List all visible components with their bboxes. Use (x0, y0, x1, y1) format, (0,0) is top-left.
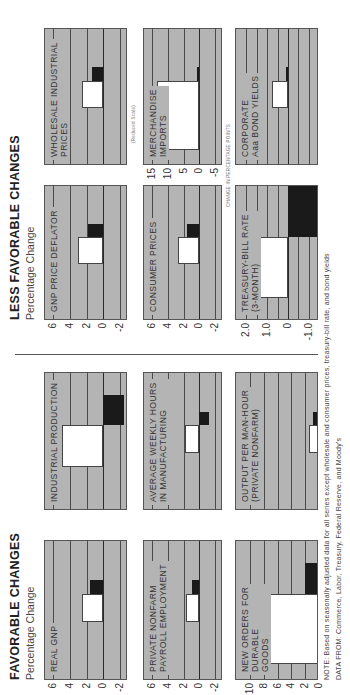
chart-panel: INDUSTRIAL PRODUCTION (44, 372, 127, 510)
chart-panel: MERCHANDISE IMPORTS (143, 28, 222, 165)
tick-label: 0 (193, 323, 204, 329)
y-axis-ticks: 6420-2 (143, 323, 222, 345)
less-favorable-title: LESS FAVORABLE CHANGES (8, 135, 22, 320)
gridline (215, 186, 216, 319)
tick-label: 0 (97, 323, 108, 329)
gridline (215, 541, 216, 679)
gridline (278, 373, 279, 509)
tick-label: -2 (209, 323, 220, 332)
tick-label: 2 (80, 683, 91, 689)
tick-label: 0 (313, 683, 324, 689)
zero-line (199, 373, 200, 509)
tick-label: 4 (63, 323, 74, 329)
gridline (298, 29, 299, 164)
zero-line (103, 373, 104, 509)
tick-label: 10 (161, 168, 172, 179)
gridline (215, 29, 216, 164)
tick-label: 4 (63, 683, 74, 689)
chart-panel: GNP PRICE DEFLATOR (44, 185, 127, 320)
dark-bar (286, 67, 288, 81)
chart-panel: AVERAGE WEEKLY HOURS IN MANUFACTURING (143, 372, 222, 510)
tick-label: 1.0 (261, 323, 272, 337)
gridline (70, 541, 71, 679)
tick-label: 4 (161, 323, 172, 329)
dark-bar (187, 224, 199, 238)
y-axis-ticks: 6420-2 (143, 683, 222, 695)
white-bar (186, 594, 199, 622)
tick-label: 15 (145, 168, 156, 179)
panel-title: WHOLESALE INDUSTRIAL PRICES (49, 39, 70, 160)
dark-bar (103, 395, 124, 425)
less-favorable-subtitle: Percentage Change (24, 227, 36, 320)
tick-label: 2 (299, 683, 310, 689)
zero-line (199, 541, 200, 679)
chart-panel: CORPORATE Aaa BOND YIELDS (235, 28, 318, 165)
chart-page: FAVORABLE CHANGES Percentage Change LESS… (0, 0, 350, 695)
gridline (120, 373, 121, 509)
dark-bar (192, 580, 199, 594)
tick-label: 4 (161, 683, 172, 689)
y-axis-ticks: 2.01.00-1.0 (235, 323, 318, 345)
white-bar (257, 237, 288, 298)
white-bar (82, 594, 104, 622)
tick-label: 2 (177, 323, 188, 329)
tick-label: 2.0 (240, 323, 251, 337)
gridline (309, 29, 310, 164)
panel-title: PRIVATE NONFARM PAYROLL EMPLOYMENT (148, 561, 169, 675)
tick-label: 0 (97, 683, 108, 689)
reduced-scale-note: (Reduced Scale) (131, 105, 136, 143)
gridline (70, 186, 71, 319)
percentage-points-note: CHANGE IN PERCENTAGE POINTS (226, 124, 231, 207)
gridline (215, 373, 216, 509)
white-bar (185, 425, 199, 453)
chart-panel: OUTPUT PER MAN-HOUR (PRIVATE NONFARM) (235, 372, 318, 510)
gridline (264, 373, 265, 509)
gridline (305, 373, 306, 509)
white-bar (309, 425, 318, 453)
zero-line (103, 29, 104, 164)
y-axis-ticks: 1086420 (235, 683, 318, 695)
panel-title: CONSUMER PRICES (148, 218, 159, 315)
chart-panel: PRIVATE NONFARM PAYROLL EMPLOYMENT (143, 540, 222, 680)
gridline (184, 541, 185, 679)
tick-label: 6 (47, 683, 58, 689)
gridline (267, 29, 268, 164)
y-axis-ticks: 6420-2 (44, 683, 127, 695)
white-bar (78, 237, 103, 264)
chart-panel: NEW ORDERS FOR DURABLE GOODS (235, 540, 318, 680)
gridline (120, 29, 121, 164)
zero-line (103, 541, 104, 679)
tick-label: 6 (145, 683, 156, 689)
tick-label: 0 (193, 683, 204, 689)
white-bar (272, 81, 288, 108)
dark-bar (199, 412, 208, 426)
zero-line (103, 186, 104, 319)
dark-bar (288, 185, 318, 237)
footnote: NOTE: Based on seasonally adjusted data … (323, 253, 330, 680)
chart-panel: TREASURY-BILL RATE (3-MONTH) (235, 185, 318, 320)
dark-bar (305, 563, 318, 594)
dark-bar (88, 224, 103, 238)
panel-title: MERCHANDISE IMPORTS (148, 86, 169, 160)
tick-label: -5 (209, 168, 220, 177)
section-divider (15, 354, 318, 355)
gridline (70, 29, 71, 164)
tick-label: -2 (113, 683, 124, 692)
y-axis-ticks: 151050-5 (143, 168, 222, 190)
chart-panel: REAL GNP (44, 540, 127, 680)
tick-label: 6 (145, 323, 156, 329)
tick-label: 4 (285, 683, 296, 689)
panel-title: REAL GNP (49, 623, 60, 675)
zero-line (288, 29, 289, 164)
dark-bar (90, 580, 103, 594)
favorable-subtitle: Percentage Change (24, 587, 36, 680)
chart-panel: WHOLESALE INDUSTRIAL PRICES (44, 28, 127, 165)
gridline (120, 186, 121, 319)
panel-title: GNP PRICE DEFLATOR (49, 207, 60, 315)
white-bar (62, 425, 104, 466)
tick-label: 2 (177, 683, 188, 689)
data-source: DATA FROM: Commerce, Labor, Treasury, Fe… (335, 438, 342, 680)
tick-label: -1.0 (302, 323, 313, 340)
panel-title: CORPORATE Aaa BOND YIELDS (240, 73, 261, 160)
dark-bar (197, 67, 199, 81)
